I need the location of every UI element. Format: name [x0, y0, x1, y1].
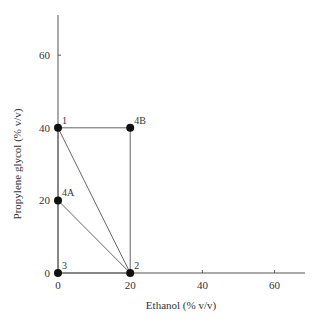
- y-tick-label: 0: [45, 267, 51, 279]
- design-space-chart: 02040600204060 1234A4B Ethanol (% v/v) P…: [0, 0, 319, 326]
- data-point-1: [54, 124, 62, 132]
- point-label: 1: [62, 115, 67, 126]
- data-point-4a: [54, 196, 62, 204]
- point-label: 3: [62, 260, 67, 271]
- y-axis-label: Propylene glycol (% v/v): [11, 108, 24, 219]
- axes: 02040600204060: [39, 15, 305, 291]
- data-point-2: [126, 269, 134, 277]
- x-tick-label: 40: [197, 279, 209, 291]
- design-segment: [58, 128, 130, 273]
- x-tick-label: 60: [269, 279, 281, 291]
- x-tick-label: 0: [55, 279, 61, 291]
- x-tick-label: 20: [125, 279, 137, 291]
- point-label: 4B: [134, 115, 146, 126]
- design-segment: [58, 200, 130, 273]
- y-tick-label: 60: [39, 49, 51, 61]
- x-axis-label: Ethanol (% v/v): [146, 299, 217, 312]
- segments: [58, 128, 130, 273]
- data-points: 1234A4B: [54, 115, 146, 277]
- y-tick-label: 20: [39, 194, 51, 206]
- y-tick-label: 40: [39, 122, 51, 134]
- point-label: 4A: [62, 187, 75, 198]
- data-point-4b: [126, 124, 134, 132]
- point-label: 2: [134, 260, 139, 271]
- data-point-3: [54, 269, 62, 277]
